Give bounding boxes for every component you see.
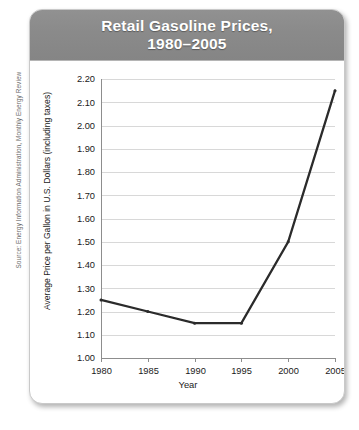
data-point [334, 89, 337, 92]
chart-title-line-1: Retail Gasoline Prices, [101, 17, 273, 35]
y-tick-label: 1.40 [77, 260, 95, 270]
x-tick-label: 2000 [278, 366, 299, 376]
x-tick-label: 1980 [91, 366, 112, 376]
y-tick-label: 1.50 [77, 237, 95, 247]
data-point [193, 322, 196, 325]
x-tick-label: 2005 [325, 366, 345, 376]
data-point [146, 310, 149, 313]
chart-canvas: 1.001.101.201.301.401.501.601.701.801.90… [30, 61, 345, 404]
x-tick-label: 1995 [231, 366, 252, 376]
data-point [240, 322, 243, 325]
chart-title-bar: Retail Gasoline Prices, 1980–2005 [30, 10, 344, 61]
data-point [100, 298, 103, 301]
x-axis-ticks: 198019851990199520002005 [91, 358, 345, 376]
y-tick-label: 1.20 [77, 307, 95, 317]
x-axis-label: Year [30, 379, 345, 390]
axis-lines [102, 79, 336, 359]
data-series-gasoline-price [100, 89, 337, 325]
y-tick-label: 1.60 [77, 214, 95, 224]
y-tick-label: 2.20 [77, 74, 95, 84]
y-tick-label: 1.90 [77, 144, 95, 154]
y-tick-label: 1.70 [77, 191, 95, 201]
y-tick-label: 2.10 [77, 98, 95, 108]
y-axis-ticks: 1.001.101.201.301.401.501.601.701.801.90… [77, 74, 95, 363]
data-point [287, 240, 290, 243]
x-tick-label: 1985 [138, 366, 159, 376]
y-tick-label: 1.30 [77, 284, 95, 294]
x-tick-label: 1990 [185, 366, 206, 376]
figure-container: Source: Energy Information Administratio… [0, 0, 359, 430]
gridlines-group [101, 80, 335, 359]
y-tick-label: 2.00 [77, 121, 95, 131]
y-tick-label: 1.80 [77, 167, 95, 177]
y-tick-label: 1.10 [77, 330, 95, 340]
chart-card: Retail Gasoline Prices, 1980–2005 Averag… [29, 9, 345, 404]
y-tick-label: 1.00 [77, 353, 95, 363]
plot-region: Average Price per Gallon in U.S. Dollars… [30, 61, 345, 404]
source-note: Source: Energy Information Administratio… [15, 29, 22, 269]
chart-title-line-2: 1980–2005 [147, 35, 226, 53]
